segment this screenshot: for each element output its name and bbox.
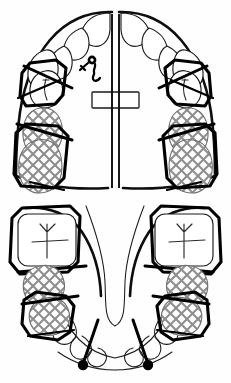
lower-arch-panel (10, 206, 221, 370)
anchor-strut-right (84, 320, 98, 361)
anchor-strut-left (133, 320, 147, 361)
screw-key-icon (80, 56, 100, 81)
dental-arch-figure: Maxillary and mandibular dental arch dia… (0, 0, 231, 383)
expansion-screw[interactable] (92, 92, 139, 108)
tooth-lower-left-central-incisor (125, 348, 144, 367)
lower-incisal-edge (58, 352, 172, 370)
upper-arch-panel (14, 12, 217, 193)
arch-diagram-canvas (0, 0, 231, 383)
left-anchor-point[interactable] (143, 360, 153, 370)
tooth-lower-right-central-incisor (88, 348, 107, 367)
right-anchor-point[interactable] (78, 360, 88, 370)
